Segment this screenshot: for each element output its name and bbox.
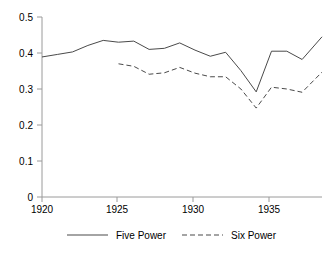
y-axis-tick-labels: 0 0.1 0.2 0.3 0.4 0.5: [19, 12, 33, 203]
y-tick-label: 0.5: [19, 12, 33, 23]
line-chart: 0 0.1 0.2 0.3 0.4 0.5 1920 1925 1930 193…: [0, 0, 330, 257]
x-axis-ticks: [42, 197, 269, 202]
chart-legend: Five Power Six Power: [67, 230, 277, 241]
y-tick-label: 0: [27, 192, 33, 203]
x-tick-label: 1930: [182, 204, 205, 215]
x-tick-label: 1920: [31, 204, 54, 215]
y-tick-label: 0.4: [19, 48, 33, 59]
x-tick-label: 1925: [106, 204, 129, 215]
y-tick-label: 0.1: [19, 156, 33, 167]
legend-label-six-power: Six Power: [231, 230, 277, 241]
series-line-six-power: [119, 64, 323, 108]
legend-label-five-power: Five Power: [116, 230, 167, 241]
chart-canvas: 0 0.1 0.2 0.3 0.4 0.5 1920 1925 1930 193…: [0, 0, 330, 257]
series-line-five-power: [42, 37, 322, 92]
x-tick-label: 1935: [258, 204, 281, 215]
y-tick-label: 0.2: [19, 120, 33, 131]
y-tick-label: 0.3: [19, 84, 33, 95]
x-axis-tick-labels: 1920 1925 1930 1935: [31, 204, 281, 215]
y-axis-ticks: [37, 17, 42, 197]
